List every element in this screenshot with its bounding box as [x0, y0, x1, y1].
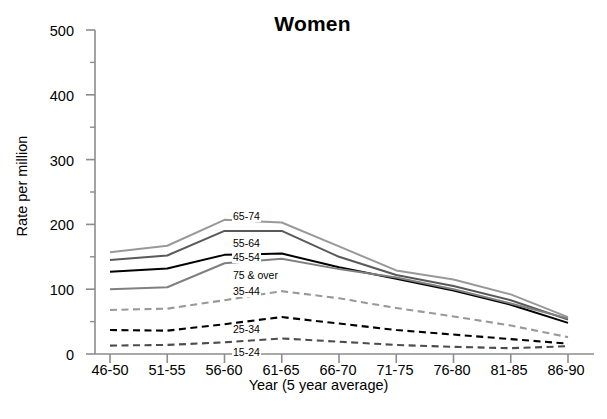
plot-area — [0, 0, 607, 419]
series-annotation-75-over: 75 & over — [232, 270, 279, 281]
series-annotation-55-64: 55-64 — [232, 238, 261, 249]
series-line-45-54 — [110, 254, 568, 323]
series-line-55-64 — [110, 231, 568, 320]
axes-lines — [86, 30, 594, 363]
chart-figure: Women Rate per million Year (5 year aver… — [0, 0, 607, 419]
series-line-25-34 — [110, 317, 568, 344]
series-line-15-24 — [110, 338, 568, 348]
series-annotation-45-54: 45-54 — [232, 252, 261, 263]
series-annotation-25-34: 25-34 — [232, 324, 261, 335]
series-annotation-65-74: 65-74 — [232, 211, 261, 222]
series-annotation-15-24: 15-24 — [232, 347, 261, 358]
series-lines — [110, 220, 568, 348]
series-annotation-35-44: 35-44 — [232, 286, 261, 297]
